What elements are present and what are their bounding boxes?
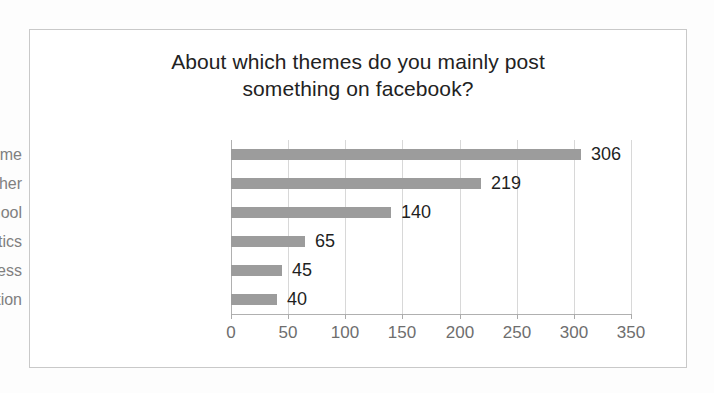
bar-row: 45	[231, 256, 631, 285]
x-axis-line	[231, 314, 631, 315]
x-tick-label-300: 300	[560, 322, 588, 344]
tickmark-150	[402, 314, 403, 319]
category-label-leisure-time: leisure time	[0, 144, 30, 166]
tickmark-200	[460, 314, 461, 319]
x-tick-label-150: 150	[388, 322, 416, 344]
category-label-job-education: job / education	[0, 289, 30, 311]
x-tick-label-0: 0	[226, 322, 235, 344]
bar-other[interactable]	[231, 178, 481, 189]
category-label-university-school: university / school	[0, 202, 30, 224]
tickmark-50	[288, 314, 289, 319]
category-axis-labels: leisure time other university / school p…	[0, 140, 30, 314]
bar-value-leisure-time: 306	[591, 142, 621, 166]
chart-title-line-2: something on facebook?	[30, 75, 686, 102]
tickmark-0	[231, 314, 232, 319]
bar-job-education[interactable]	[231, 294, 277, 305]
bar-daily-business[interactable]	[231, 265, 282, 276]
plot-area: 306 219 140 65 45 40 0 50 100 150 200 25…	[231, 140, 631, 314]
category-label-daily-business: daily business	[0, 260, 30, 282]
tickmark-300	[574, 314, 575, 319]
x-tick-label-250: 250	[503, 322, 531, 344]
tickmark-100	[345, 314, 346, 319]
bar-politics[interactable]	[231, 236, 305, 247]
bar-value-job-education: 40	[287, 287, 307, 311]
bar-row: 219	[231, 169, 631, 198]
x-tick-label-350: 350	[617, 322, 645, 344]
tickmark-350	[631, 314, 632, 319]
bar-row: 65	[231, 227, 631, 256]
category-label-other: other	[0, 173, 30, 195]
bar-university-school[interactable]	[231, 207, 391, 218]
bar-value-other: 219	[491, 171, 521, 195]
bar-row: 306	[231, 140, 631, 169]
chart-title-line-1: About which themes do you mainly post	[30, 48, 686, 75]
category-label-politics: politics	[0, 231, 30, 253]
tickmark-250	[517, 314, 518, 319]
x-tick-label-100: 100	[331, 322, 359, 344]
bar-row: 140	[231, 198, 631, 227]
bar-value-politics: 65	[315, 229, 335, 253]
chart-title: About which themes do you mainly post so…	[30, 48, 686, 102]
bar-row: 40	[231, 285, 631, 314]
bar-value-university-school: 140	[401, 200, 431, 224]
x-tick-label-200: 200	[446, 322, 474, 344]
bar-leisure-time[interactable]	[231, 149, 581, 160]
x-tick-label-50: 50	[279, 322, 298, 344]
chart-frame: About which themes do you mainly post so…	[29, 29, 687, 368]
gridline-350	[631, 140, 632, 314]
bar-value-daily-business: 45	[292, 258, 312, 282]
